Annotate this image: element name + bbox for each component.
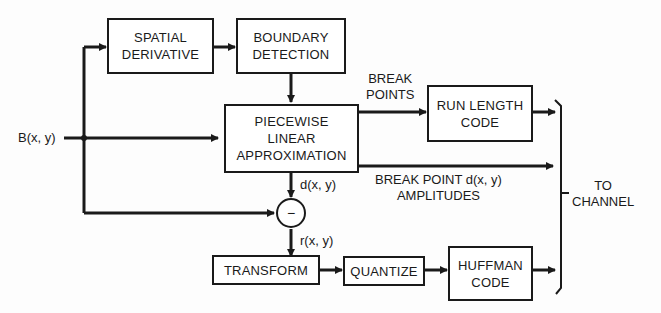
run-length-code-label: RUN LENGTH CODE bbox=[437, 97, 524, 131]
spatial-derivative-block: SPATIAL DERIVATIVE bbox=[107, 18, 214, 74]
minus-symbol: − bbox=[287, 205, 295, 221]
run-length-code-block: RUN LENGTH CODE bbox=[427, 85, 533, 142]
boundary-detection-block: BOUNDARY DETECTION bbox=[236, 18, 346, 74]
quantize-label: QUANTIZE bbox=[350, 263, 417, 280]
block-diagram: SPATIAL DERIVATIVE BOUNDARY DETECTION PI… bbox=[0, 0, 661, 313]
transform-block: TRANSFORM bbox=[212, 255, 320, 285]
quantize-block: QUANTIZE bbox=[343, 256, 425, 286]
piecewise-linear-block: PIECEWISE LINEAR APPROXIMATION bbox=[224, 104, 359, 173]
huffman-code-block: HUFFMAN CODE bbox=[448, 246, 533, 301]
boundary-detection-label: BOUNDARY DETECTION bbox=[253, 29, 330, 63]
huffman-code-label: HUFFMAN CODE bbox=[458, 257, 523, 291]
break-points-label: BREAK POINTS bbox=[366, 71, 414, 103]
d-signal-label: d(x, y) bbox=[300, 177, 336, 193]
r-signal-label: r(x, y) bbox=[300, 233, 333, 249]
piecewise-linear-label: PIECEWISE LINEAR APPROXIMATION bbox=[237, 113, 347, 164]
input-signal-label: B(x, y) bbox=[18, 130, 56, 146]
break-point-amplitudes-label: BREAK POINT d(x, y) AMPLITUDES bbox=[375, 172, 502, 204]
to-channel-label: TO CHANNEL bbox=[572, 178, 634, 210]
transform-label: TRANSFORM bbox=[224, 262, 308, 279]
subtractor-node: − bbox=[276, 198, 306, 228]
spatial-derivative-label: SPATIAL DERIVATIVE bbox=[122, 29, 199, 63]
